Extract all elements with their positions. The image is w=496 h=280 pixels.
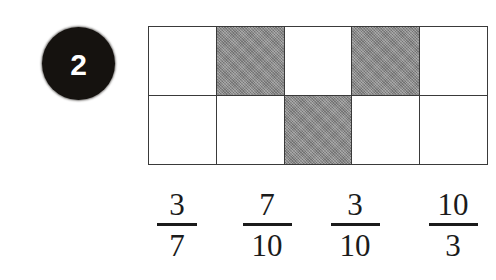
worksheet-page: 2 3 7 7 10 3 (0, 0, 496, 280)
answer-choice-1[interactable]: 3 7 (140, 188, 214, 262)
question-number-badge: 2 (42, 27, 115, 100)
answer-choice-2[interactable]: 7 10 (230, 188, 304, 262)
grid-row-bottom (149, 96, 487, 165)
grid-cell-r2c1[interactable] (149, 96, 217, 165)
grid-cell-r2c4[interactable] (352, 96, 420, 165)
answer-choice-4-fraction-bar (429, 223, 478, 226)
grid-cell-r2c3[interactable] (285, 96, 353, 165)
grid-cell-r1c5[interactable] (420, 27, 487, 96)
answer-choice-4[interactable]: 10 3 (416, 188, 490, 262)
fraction-model-grid (148, 26, 488, 165)
answer-choice-4-numerator: 10 (416, 188, 490, 221)
answer-choices: 3 7 7 10 3 10 10 3 (143, 188, 496, 270)
answer-choice-2-numerator: 7 (230, 188, 304, 221)
answer-choice-1-numerator: 3 (140, 188, 214, 221)
answer-choice-2-fraction-bar (243, 223, 292, 226)
answer-choice-3[interactable]: 3 10 (318, 188, 392, 262)
grid-cell-r1c2[interactable] (217, 27, 285, 96)
grid-row-top (149, 27, 487, 96)
answer-choice-3-denominator: 10 (318, 229, 392, 262)
answer-choice-1-denominator: 7 (140, 229, 214, 262)
grid-cell-r1c3[interactable] (285, 27, 353, 96)
answer-choice-3-numerator: 3 (318, 188, 392, 221)
answer-choice-2-denominator: 10 (230, 229, 304, 262)
question-number-label: 2 (42, 27, 115, 100)
grid-cell-r1c4[interactable] (352, 27, 420, 96)
answer-choice-4-denominator: 3 (416, 229, 490, 262)
grid-cell-r1c1[interactable] (149, 27, 217, 96)
grid-cell-r2c2[interactable] (217, 96, 285, 165)
answer-choice-1-fraction-bar (157, 223, 197, 226)
answer-choice-3-fraction-bar (331, 223, 380, 226)
grid-cell-r2c5[interactable] (420, 96, 487, 165)
